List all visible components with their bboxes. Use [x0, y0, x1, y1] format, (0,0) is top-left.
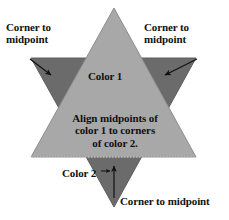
label-corner-to-midpoint-right-line2: midpoint [144, 33, 186, 45]
label-color-1: Color 1 [88, 71, 122, 83]
label-align-note-line1: Align midpoints of [72, 112, 158, 124]
label-corner-to-midpoint-left: Corner to midpoint [6, 22, 90, 45]
figure-canvas: Corner to midpoint Corner to midpoint Co… [0, 0, 229, 220]
label-corner-to-midpoint-bottom: Corner to midpoint [120, 196, 210, 208]
label-corner-to-midpoint-left-line1: Corner to [6, 21, 51, 33]
label-corner-to-midpoint-left-line2: midpoint [6, 33, 48, 45]
label-align-midpoints-note: Align midpoints of color 1 to corners of… [56, 112, 174, 149]
label-color-2: Color 2 [62, 168, 96, 180]
label-corner-to-midpoint-right-line1: Corner to [144, 21, 189, 33]
label-align-note-line3: of color 2. [92, 137, 137, 149]
label-align-note-line2: color 1 to corners [75, 124, 155, 136]
label-corner-to-midpoint-right: Corner to midpoint [144, 22, 228, 45]
